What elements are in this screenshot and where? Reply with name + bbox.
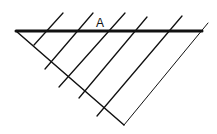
parallel-line-2 [45, 13, 93, 69]
parallel-line-6 [124, 23, 208, 125]
parallel-lines-diagram: A [0, 0, 217, 134]
point-label-a: A [96, 16, 104, 30]
parallel-line-4 [79, 17, 147, 98]
parallel-line-3 [59, 13, 125, 87]
diagonal-edge [16, 31, 124, 125]
parallel-line-1 [34, 13, 63, 45]
